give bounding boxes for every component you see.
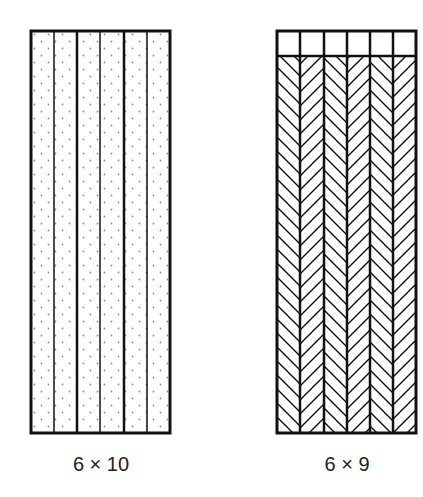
label-right: 6 × 9 <box>277 453 417 476</box>
label-left: 6 × 10 <box>31 453 171 476</box>
figure-left-6x10 <box>31 31 170 433</box>
diagram-canvas <box>0 0 423 497</box>
figure-right-6x9 <box>277 31 416 433</box>
